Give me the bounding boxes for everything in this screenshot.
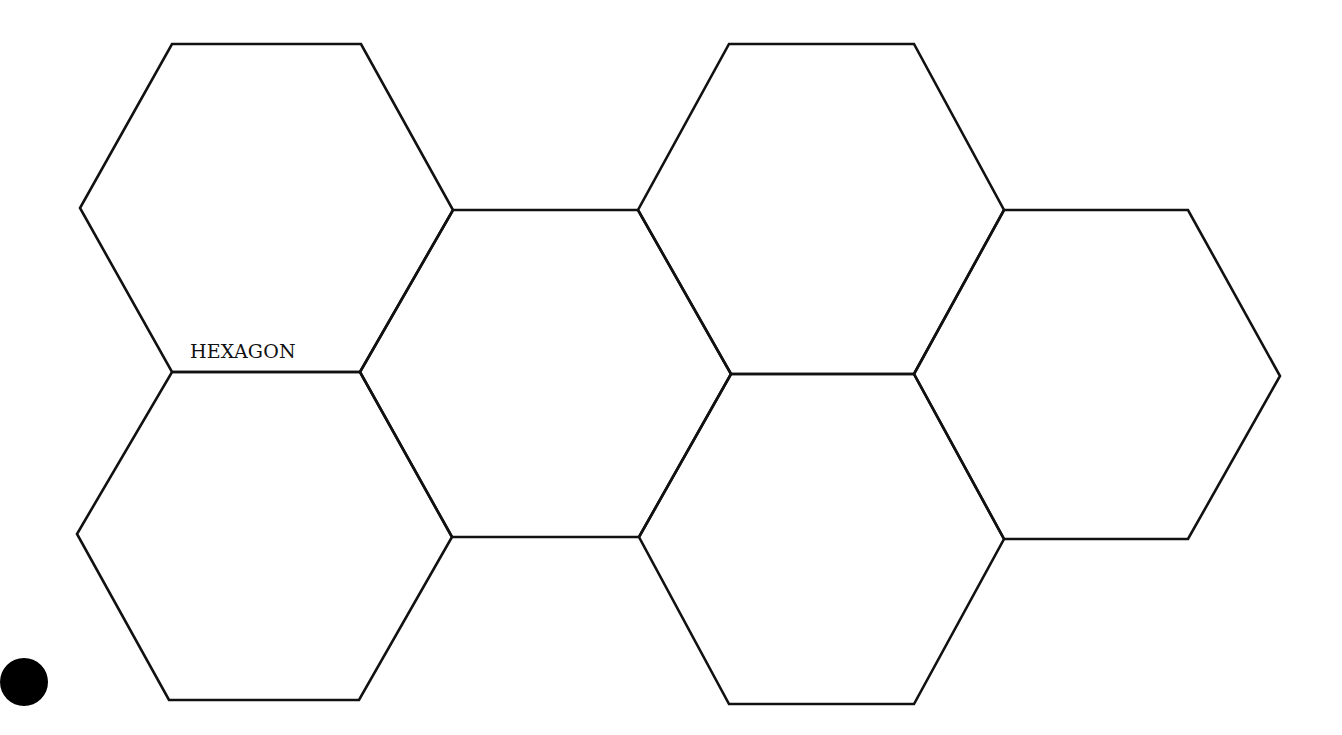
hexagon-diagram bbox=[0, 0, 1342, 735]
hexagon-middle-left bbox=[360, 210, 731, 537]
hexagon-label: HEXAGON bbox=[190, 340, 296, 362]
filled-circle-marker bbox=[0, 658, 48, 706]
hexagon-bottom-middle bbox=[639, 374, 1004, 704]
hexagon-top-left bbox=[80, 44, 453, 372]
hexagon-right bbox=[914, 210, 1280, 539]
hexagon-bottom-left bbox=[77, 372, 452, 700]
hexagon-top-right bbox=[638, 44, 1004, 374]
